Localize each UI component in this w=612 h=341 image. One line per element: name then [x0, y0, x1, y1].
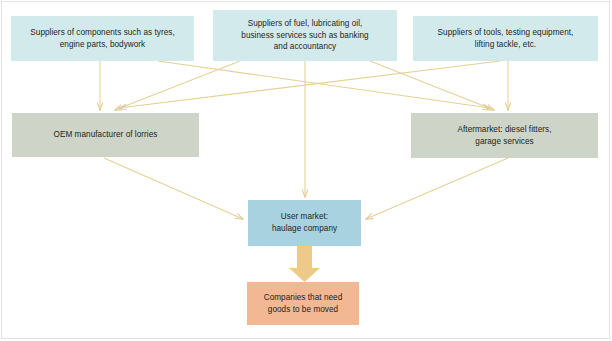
diagram-canvas: Suppliers of components such as tyres, e… [0, 0, 612, 341]
node-oem-manufacturer[interactable]: OEM manufacturer of lorries [12, 113, 199, 157]
node-user-market[interactable]: User market: haulage company [248, 200, 361, 246]
node-label: Suppliers of components such as tyres, [30, 27, 174, 39]
node-label: and accountancy [274, 41, 337, 53]
edge-fuel-to-oem [115, 61, 240, 110]
node-label: lifting tackle, etc. [475, 39, 536, 51]
node-label: Aftermarket: diesel fitters, [458, 124, 552, 136]
node-aftermarket[interactable]: Aftermarket: diesel fitters, garage serv… [411, 113, 598, 158]
node-label: Suppliers of fuel, lubricating oil, [248, 18, 363, 30]
node-label: engine parts, bodywork [60, 39, 146, 51]
edge-usermarket-to-companies [289, 246, 320, 282]
edge-oem-to-usermarket [104, 158, 243, 219]
node-suppliers-of-tools[interactable]: Suppliers of tools, testing equipment, l… [413, 16, 598, 61]
node-label: OEM manufacturer of lorries [54, 129, 158, 141]
node-suppliers-of-components[interactable]: Suppliers of components such as tyres, e… [11, 16, 194, 61]
edge-aftermarket-to-usermarket [366, 158, 508, 219]
node-label: garage services [475, 136, 533, 148]
node-label: Suppliers of tools, testing equipment, [438, 27, 574, 39]
edge-fuel-to-aftermarket [370, 61, 494, 110]
node-label: Companies that need [264, 292, 343, 304]
node-companies-needing-goods-moved[interactable]: Companies that need goods to be moved [247, 282, 359, 325]
node-suppliers-of-fuel[interactable]: Suppliers of fuel, lubricating oil, busi… [213, 10, 397, 61]
node-label: haulage company [272, 223, 337, 235]
node-label: business services such as banking [241, 30, 368, 42]
node-label: goods to be moved [268, 304, 338, 316]
node-label: User market: [281, 211, 328, 223]
